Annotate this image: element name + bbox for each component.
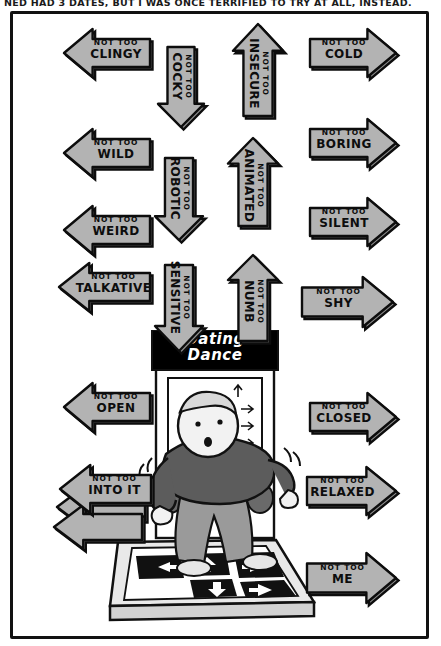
arrow-silent: NOT TOOSILENT: [308, 195, 398, 249]
arrow-clingy: NOT TOOCLINGY: [62, 26, 152, 80]
arrow-open: NOT TOOOPEN: [62, 380, 152, 434]
arrow-robotic: NOT TOOROBOTIC: [152, 156, 206, 242]
arrow-relaxed: NOT TOORELAXED: [305, 464, 398, 518]
arrow-me: NOT TOOME: [305, 550, 398, 606]
arrow-insecure: NOT TOOINSECURE: [230, 22, 286, 118]
arrow-animated: NOT TOOANIMATED: [225, 136, 281, 228]
arrow-talkative: NOT TOOTALKATIVE: [57, 260, 152, 314]
dance-pad: [110, 540, 314, 620]
comic-caption: NED HAD 3 DATES, BUT I WAS ONCE TERRIFIE…: [4, 0, 441, 9]
comic-panel-root: NED HAD 3 DATES, BUT I WAS ONCE TERRIFIE…: [0, 0, 441, 646]
arrow-closed: NOT TOOCLOSED: [308, 390, 398, 444]
arrow-cocky: NOT TOOCOCKY: [155, 45, 207, 129]
arrow-shy: NOT TOOSHY: [300, 274, 395, 330]
arrow-into-it: NOT TOOINTO IT: [58, 462, 153, 516]
arrow-weird: NOT TOOWEIRD: [62, 203, 152, 257]
arrow-cold: NOT TOOCOLD: [308, 26, 398, 80]
arrow-boring: NOT TOOBORING: [308, 116, 398, 170]
arrow-sensitive: NOT TOOSENSITIVE: [152, 263, 206, 353]
arrow-wild: NOT TOOWILD: [62, 126, 152, 180]
arrow-numb: NOT TOONUMB: [225, 253, 281, 343]
